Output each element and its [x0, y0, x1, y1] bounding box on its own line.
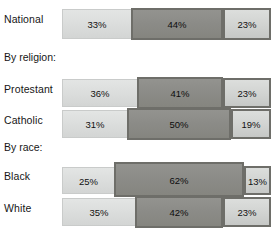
bar-segment-white-2: 42%	[135, 196, 223, 228]
bar-value-label: 33%	[87, 20, 106, 30]
section-header-by-race: By race:	[4, 141, 43, 153]
bar-value-label: 41%	[170, 89, 189, 99]
bar-value-label: 19%	[241, 120, 260, 130]
bar-segment-national-2: 44%	[131, 8, 223, 40]
bar-value-label: 35%	[89, 208, 108, 218]
bar-segment-catholic-3: 19%	[231, 109, 271, 139]
bar-segment-catholic-1: 31%	[62, 110, 127, 138]
bar-value-label: 62%	[169, 175, 188, 185]
row-label-national: National	[4, 13, 43, 25]
bar-segment-protestant-2: 41%	[137, 77, 223, 109]
bar-value-label: 25%	[79, 176, 98, 186]
bar-value-label: 23%	[237, 208, 256, 218]
bar-value-label: 44%	[167, 20, 186, 30]
bar-segment-protestant-1: 36%	[62, 79, 137, 107]
bar-segment-white-1: 35%	[62, 198, 135, 226]
bar-value-label: 23%	[237, 89, 256, 99]
bar-value-label: 23%	[237, 20, 256, 30]
stacked-bar-chart: By religion:By race:National33%44%23%Pro…	[0, 0, 278, 231]
bar-segment-national-3: 23%	[223, 8, 271, 40]
bar-value-label: 50%	[169, 120, 188, 130]
section-header-by-religion: By religion:	[4, 51, 56, 63]
row-label-protestant: Protestant	[4, 83, 53, 95]
row-label-catholic: Catholic	[4, 114, 43, 126]
row-label-white: White	[4, 202, 31, 214]
bar-value-label: 31%	[85, 120, 104, 130]
bar-value-label: 36%	[90, 89, 109, 99]
bar-value-label: 42%	[169, 208, 188, 218]
row-label-black: Black	[4, 170, 30, 182]
bar-segment-black-2: 62%	[114, 162, 244, 197]
bar-segment-white-3: 23%	[223, 197, 271, 227]
bar-segment-black-1: 25%	[62, 167, 114, 194]
bar-segment-national-1: 33%	[62, 9, 131, 39]
bar-segment-protestant-3: 23%	[223, 78, 271, 108]
bar-value-label: 13%	[248, 176, 267, 186]
bar-segment-black-3: 13%	[244, 166, 271, 195]
bar-segment-catholic-2: 50%	[127, 108, 231, 140]
